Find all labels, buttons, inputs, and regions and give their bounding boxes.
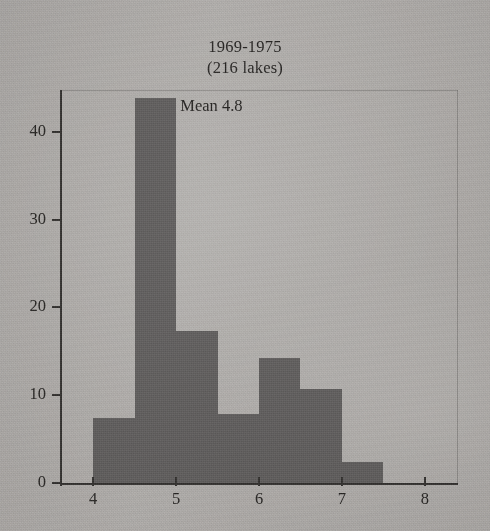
- histogram-bar: [218, 414, 259, 484]
- y-axis-tick-label: 40: [30, 121, 47, 141]
- histogram-bar: [342, 462, 383, 484]
- y-axis-tick-label: 0: [38, 472, 46, 492]
- plot-frame-right: [457, 90, 458, 485]
- y-axis-tick: 30: [52, 219, 61, 221]
- x-axis-tick: 4: [92, 477, 94, 486]
- histogram-figure: 1969-1975 (216 lakes) 010203040 45678 Me…: [0, 0, 490, 531]
- page-title: 1969-1975: [0, 36, 490, 57]
- x-axis-tick-label: 7: [338, 489, 346, 509]
- x-axis-tick: 5: [175, 477, 177, 486]
- plot-area: 010203040 45678 Mean 4.8: [60, 90, 458, 485]
- x-axis-tick: 6: [258, 477, 260, 486]
- histogram-bar: [300, 389, 341, 484]
- y-axis-tick-label: 30: [30, 209, 47, 229]
- x-axis-tick: 7: [341, 477, 343, 486]
- y-axis-tick: 40: [52, 131, 61, 133]
- x-axis-tick-label: 8: [421, 489, 429, 509]
- y-axis-tick-label: 20: [30, 296, 47, 316]
- histogram-bar: [135, 98, 176, 484]
- histogram-bar: [259, 358, 300, 484]
- x-axis-tick-label: 5: [172, 489, 180, 509]
- y-axis-tick-label: 10: [30, 384, 47, 404]
- y-axis-tick: 10: [52, 394, 61, 396]
- y-axis-tick: 0: [52, 482, 61, 484]
- histogram-bar: [176, 331, 217, 484]
- x-axis-tick-label: 6: [255, 489, 263, 509]
- y-axis-tick: 20: [52, 306, 61, 308]
- x-axis-tick-label: 4: [89, 489, 97, 509]
- chart-subtitle: (216 lakes): [0, 57, 490, 78]
- chart-title-block: 1969-1975 (216 lakes): [0, 36, 490, 78]
- plot-frame-top: [60, 90, 458, 91]
- x-axis-tick: 8: [424, 477, 426, 486]
- y-axis-line: [60, 90, 62, 486]
- mean-annotation: Mean 4.8: [180, 96, 242, 116]
- histogram-bar: [93, 418, 134, 484]
